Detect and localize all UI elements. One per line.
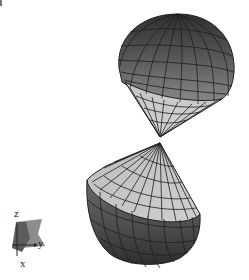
axis-label-z: z: [14, 208, 19, 219]
upper-cone-sphere: [118, 14, 234, 137]
lower-cone-sphere: [87, 143, 200, 268]
axis-label-y: y: [38, 238, 44, 249]
axis-label-x: x: [20, 258, 26, 269]
